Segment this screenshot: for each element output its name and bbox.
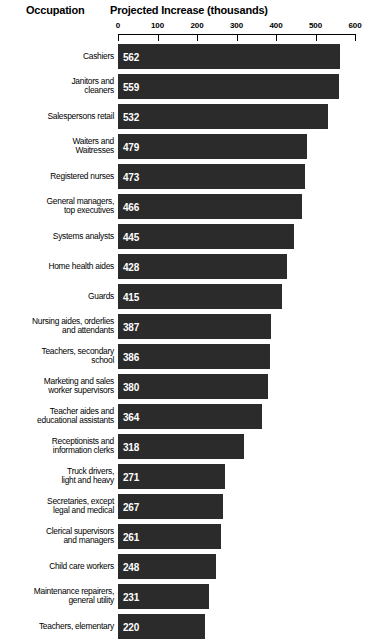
bar-value-label: 380 [123, 381, 139, 392]
bar-category-label-line: cleaners [2, 87, 114, 97]
bar-value-label: 428 [123, 261, 139, 272]
bar-row: Systems analysts445 [0, 224, 370, 249]
bar-category-label-line: Child care workers [2, 562, 114, 572]
x-axis-tick [118, 34, 119, 41]
x-axis-tick [355, 34, 356, 41]
bar-category-label: Janitors andcleaners [2, 77, 114, 96]
bar-value-label: 248 [123, 561, 139, 572]
bar-value-label: 562 [123, 51, 139, 62]
bar-value-label: 445 [123, 231, 139, 242]
bar-row: Home health aides428 [0, 254, 370, 279]
bar: 261 [118, 524, 221, 549]
bar-category-label-line: school [2, 357, 114, 367]
bar-value-label: 473 [123, 171, 139, 182]
bar-category-label-line: Systems analysts [2, 232, 114, 242]
bar-category-label-line: Waitresses [2, 147, 114, 157]
bar-row: Teachers, elementary220 [0, 614, 370, 639]
bar-category-label-line: Salespersons retail [2, 112, 114, 122]
bar: 386 [118, 344, 270, 369]
bar: 415 [118, 284, 282, 309]
bar-value-label: 387 [123, 321, 139, 332]
bar-category-label-line: Guards [2, 292, 114, 302]
bar-category-label: Cashiers [2, 52, 114, 62]
bar: 318 [118, 434, 244, 459]
bar-category-label: Guards [2, 292, 114, 302]
bar-category-label: Teachers, elementary [2, 622, 114, 632]
bar: 479 [118, 134, 307, 159]
bar: 559 [118, 74, 339, 99]
x-axis-tick [197, 34, 198, 41]
bar-category-label: Nursing aides, orderliesand attendants [2, 317, 114, 336]
bar-row: Child care workers248 [0, 554, 370, 579]
bar-row: General managers,top executives466 [0, 194, 370, 219]
bar-value-label: 220 [123, 621, 139, 632]
bar-category-label-line: general utility [2, 597, 114, 607]
x-axis-tick-label: 300 [222, 21, 252, 30]
bar-row: Cashiers562 [0, 44, 370, 69]
bar-value-label: 271 [123, 471, 139, 482]
bar-row: Secretaries, exceptlegal and medical267 [0, 494, 370, 519]
bar-row: Guards415 [0, 284, 370, 309]
bar-row: Marketing and salesworker supervisors380 [0, 374, 370, 399]
bar-value-label: 479 [123, 141, 139, 152]
bar-value-label: 532 [123, 111, 139, 122]
bar-value-label: 261 [123, 531, 139, 542]
bar-category-label-line: Cashiers [2, 52, 114, 62]
bar-value-label: 466 [123, 201, 139, 212]
bar-row: Clerical supervisorsand managers261 [0, 524, 370, 549]
bar-category-label: Registered nurses [2, 172, 114, 182]
bar-category-label: Salespersons retail [2, 112, 114, 122]
bar-category-label: Systems analysts [2, 232, 114, 242]
chart-header: Occupation Projected Increase (thousands… [0, 4, 370, 20]
x-axis-tick-label: 200 [182, 21, 212, 30]
bar-category-label: General managers,top executives [2, 197, 114, 216]
x-axis-tick-label: 400 [261, 21, 291, 30]
bar-category-label-line: Home health aides [2, 262, 114, 272]
bar: 532 [118, 104, 328, 129]
bar: 562 [118, 44, 340, 69]
bar-value-label: 231 [123, 591, 139, 602]
bar-row: Truck drivers,light and heavy271 [0, 464, 370, 489]
bar-category-label-line: Registered nurses [2, 172, 114, 182]
bar-category-label-line: and attendants [2, 327, 114, 337]
bar-category-label-line: information clerks [2, 447, 114, 457]
bar: 220 [118, 614, 205, 639]
bar-value-label: 318 [123, 441, 139, 452]
bar-category-label: Waiters andWaitresses [2, 137, 114, 156]
bar-row: Teachers, secondaryschool386 [0, 344, 370, 369]
bar-category-label-line: legal and medical [2, 507, 114, 517]
bar-category-label: Secretaries, exceptlegal and medical [2, 497, 114, 516]
bar-category-label: Child care workers [2, 562, 114, 572]
bar-category-label-line: top executives [2, 207, 114, 217]
x-axis-tick [158, 34, 159, 41]
bar-category-label-line: light and heavy [2, 477, 114, 487]
bar-category-label: Home health aides [2, 262, 114, 272]
bar-row: Maintenance repairers,general utility231 [0, 584, 370, 609]
bar-category-label-line: educational assistants [2, 417, 114, 427]
bar-value-label: 415 [123, 291, 139, 302]
bar: 387 [118, 314, 271, 339]
bar-chart-rows: Cashiers562Janitors andcleaners559Salesp… [0, 44, 370, 643]
bar-value-label: 386 [123, 351, 139, 362]
bar-row: Waiters andWaitresses479 [0, 134, 370, 159]
x-axis-tick-label: 0 [103, 21, 133, 30]
x-axis-tick-label: 100 [143, 21, 173, 30]
bar-value-label: 364 [123, 411, 139, 422]
bar: 248 [118, 554, 216, 579]
bar-category-label: Truck drivers,light and heavy [2, 467, 114, 486]
x-axis-tick [316, 34, 317, 41]
bar-row: Receptionists andinformation clerks318 [0, 434, 370, 459]
x-axis-tick [276, 34, 277, 41]
x-axis-tick-label: 600 [340, 21, 370, 30]
bar: 267 [118, 494, 223, 519]
bar-row: Teacher aides andeducational assistants3… [0, 404, 370, 429]
bar-category-label: Marketing and salesworker supervisors [2, 377, 114, 396]
bar-value-label: 559 [123, 81, 139, 92]
x-axis-tick [237, 34, 238, 41]
bar-category-label: Receptionists andinformation clerks [2, 437, 114, 456]
bar: 428 [118, 254, 287, 279]
bar: 364 [118, 404, 262, 429]
bar-category-label: Teachers, secondaryschool [2, 347, 114, 366]
bar-row: Nursing aides, orderliesand attendants38… [0, 314, 370, 339]
bar-category-label: Clerical supervisorsand managers [2, 527, 114, 546]
